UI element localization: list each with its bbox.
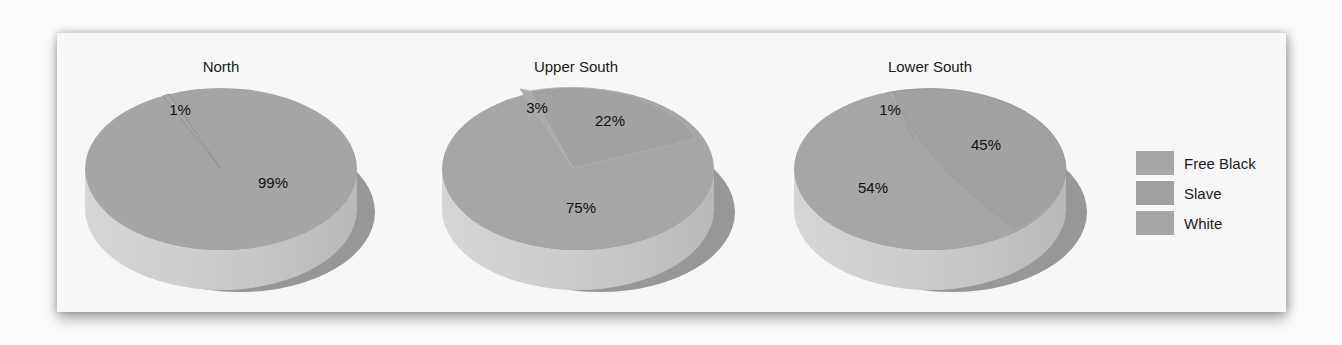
- legend-item-white: White: [1136, 203, 1256, 243]
- pct-label-white: 54%: [858, 179, 888, 196]
- chart-legend: Free Black Slave White: [1136, 143, 1256, 243]
- legend-label: White: [1184, 215, 1222, 232]
- pct-label-slave: 22%: [595, 112, 625, 129]
- legend-label: Free Black: [1184, 155, 1256, 172]
- pct-label-free-black: 1%: [169, 101, 191, 118]
- legend-swatch-slave: [1136, 181, 1174, 205]
- pie-title-lower-south: Lower South: [888, 58, 972, 75]
- pct-label-white: 99%: [258, 174, 288, 191]
- pie-title-north: North: [203, 58, 240, 75]
- legend-swatch-free-black: [1136, 151, 1174, 175]
- pct-label-free-black: 1%: [879, 101, 901, 118]
- pie-title-upper-south: Upper South: [534, 58, 618, 75]
- pie-north: North 1% 99%: [85, 58, 375, 292]
- pie-lower-south: Lower South 1% 45% 54%: [794, 58, 1087, 292]
- legend-swatch-white: [1136, 211, 1174, 235]
- legend-label: Slave: [1184, 185, 1222, 202]
- pct-label-free-black: 3%: [526, 99, 548, 116]
- pct-label-slave: 45%: [971, 136, 1001, 153]
- pie-upper-south: Upper South 3% 22% 75%: [442, 58, 735, 292]
- pct-label-white: 75%: [566, 199, 596, 216]
